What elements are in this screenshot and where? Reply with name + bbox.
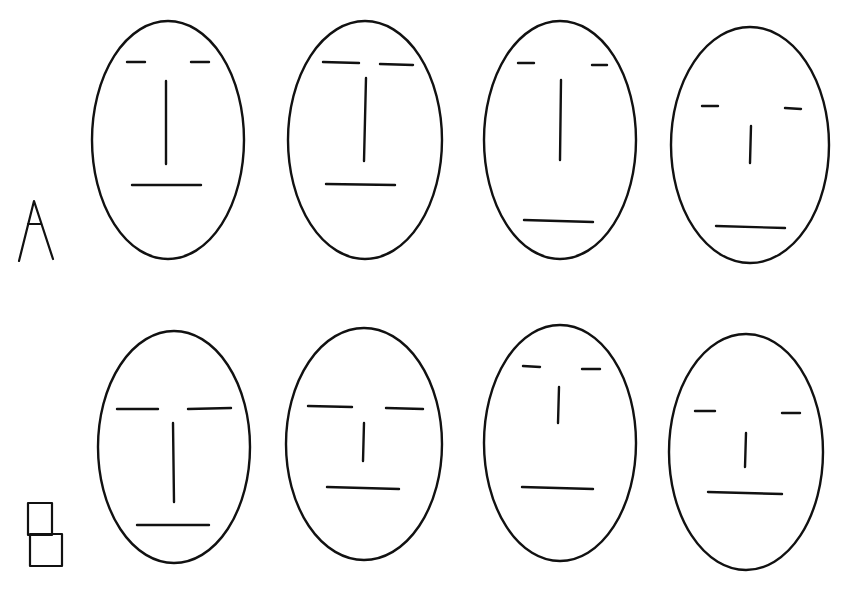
left-eye-line (523, 366, 540, 367)
nose-line (558, 387, 559, 423)
face-b2 (286, 328, 442, 560)
face-outline (484, 325, 636, 561)
row-b (28, 325, 823, 570)
nose-line (173, 423, 174, 502)
row-a-label-letter-a-icon (19, 201, 53, 261)
face-a1 (92, 21, 244, 259)
right-eye-line (785, 108, 801, 109)
face-a4 (671, 27, 829, 263)
mouth-line (522, 487, 593, 489)
nose-line (363, 423, 364, 461)
bottom-box (30, 534, 62, 566)
right-eye-line (380, 64, 413, 65)
nose-line (560, 80, 561, 160)
mouth-line (326, 184, 395, 185)
mouth-line (327, 487, 399, 489)
face-b1 (98, 331, 250, 563)
row-b-label-stacked-boxes-icon (28, 503, 62, 566)
faces-diagram (0, 0, 844, 601)
right-eye-line (386, 408, 423, 409)
mouth-line (708, 492, 782, 494)
letter-a-strokes (19, 201, 53, 261)
face-a2 (288, 21, 442, 259)
face-outline (92, 21, 244, 259)
row-a-faces (92, 21, 829, 263)
row-b-faces (98, 325, 823, 570)
face-a3 (484, 21, 636, 259)
nose-line (745, 433, 746, 467)
top-box (28, 503, 52, 535)
face-b4 (669, 334, 823, 570)
mouth-line (716, 226, 785, 228)
face-b3 (484, 325, 636, 561)
nose-line (750, 126, 751, 163)
nose-line (364, 78, 366, 161)
row-a (19, 21, 829, 263)
right-eye-line (188, 408, 231, 409)
mouth-line (524, 220, 593, 222)
left-eye-line (308, 406, 352, 407)
left-eye-line (323, 62, 359, 63)
